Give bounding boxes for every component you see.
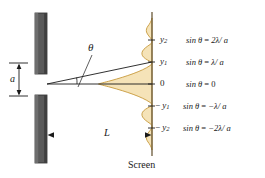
minus-y1-subscript: 1 — [166, 103, 169, 110]
y2-eq-rhs: 2λ/ a — [211, 35, 228, 45]
fringe-equation-minus-y2: sin θ = −2λ/ a — [183, 124, 231, 133]
theta-leader-line — [78, 55, 92, 87]
y1-eq-rhs: λ/ a — [211, 57, 223, 67]
center-symbol: 0 — [160, 78, 165, 88]
fringe-equation-minus-y1: sin θ = −λ/ a — [183, 102, 226, 111]
y2-eq-sign: = — [204, 35, 209, 45]
center-eq-sign: = — [204, 79, 209, 89]
fringe-position-label-center: 0 — [160, 79, 165, 88]
center-eq-lhs: sin θ — [186, 79, 202, 89]
y2-eq-lhs: sin θ — [186, 35, 202, 45]
fringe-equation-y1: sin θ = λ/ a — [186, 58, 224, 67]
y1-eq-lhs: sin θ — [186, 57, 202, 67]
distance-L-label: L — [104, 128, 110, 139]
fringe-position-label-y1: y1 — [160, 57, 167, 67]
minus-y1-eq-rhs: −λ/ a — [208, 101, 226, 111]
minus-y1-eq-lhs: sin θ — [183, 101, 199, 111]
diffraction-figure: a θ L Screen y2 sin θ = 2λ/ a y1 sin θ =… — [0, 0, 265, 178]
lower-barrier — [35, 95, 47, 163]
fringe-position-label-minus-y1: − y1 — [155, 101, 170, 111]
theta-angle-label: θ — [88, 42, 93, 53]
y1-subscript: 1 — [164, 59, 167, 66]
fringe-position-label-minus-y2: − y2 — [155, 123, 170, 133]
upper-barrier — [35, 13, 47, 74]
distance-L-dimension — [48, 128, 152, 142]
y2-subscript: 2 — [164, 37, 167, 44]
screen-label: Screen — [128, 160, 155, 170]
fringe-position-label-y2: y2 — [160, 35, 167, 45]
diagram-canvas — [0, 0, 265, 178]
center-eq-rhs: 0 — [211, 79, 215, 89]
minus-y2-eq-rhs: −2λ/ a — [208, 123, 230, 133]
fringe-equation-y2: sin θ = 2λ/ a — [186, 36, 228, 45]
minus-y2-eq-sign: = — [201, 123, 206, 133]
y1-eq-sign: = — [204, 57, 209, 67]
slit-width-label: a — [10, 74, 15, 84]
minus-y2-subscript: 2 — [166, 125, 169, 132]
minus-y2-eq-lhs: sin θ — [183, 123, 199, 133]
minus-y1-eq-sign: = — [201, 101, 206, 111]
fringe-equation-center: sin θ = 0 — [186, 80, 216, 89]
